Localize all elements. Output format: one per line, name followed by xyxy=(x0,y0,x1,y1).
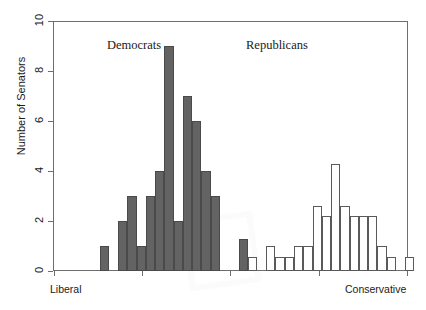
x-tickmark-2 xyxy=(230,271,231,276)
histogram-bar xyxy=(137,246,146,271)
bars-container xyxy=(0,0,426,310)
histogram-bar xyxy=(322,216,331,271)
histogram-bar xyxy=(201,171,210,271)
histogram-bar xyxy=(248,257,257,271)
histogram-bar xyxy=(266,246,275,271)
x-tickmark-0 xyxy=(54,271,55,276)
histogram-bar xyxy=(164,46,173,271)
histogram-bar xyxy=(118,221,127,271)
histogram-bar xyxy=(387,257,396,271)
x-tickmark-1 xyxy=(142,271,143,276)
histogram-bar xyxy=(146,196,155,271)
histogram-bar xyxy=(331,164,340,272)
histogram-figure: Number of Senators 10 8 6 4 2 0 Democrat… xyxy=(0,0,426,310)
x-label-liberal: Liberal xyxy=(50,283,82,295)
histogram-bar xyxy=(368,216,377,271)
histogram-bar xyxy=(294,246,303,271)
histogram-bar xyxy=(377,246,386,271)
histogram-bar xyxy=(285,257,294,271)
x-tickmark-4 xyxy=(407,271,408,276)
histogram-bar xyxy=(275,257,284,271)
histogram-bar xyxy=(100,246,109,271)
histogram-bar xyxy=(350,216,359,271)
histogram-bar xyxy=(359,216,368,271)
histogram-bar xyxy=(211,196,220,271)
histogram-bar xyxy=(405,257,414,271)
histogram-bar xyxy=(192,121,201,271)
histogram-bar xyxy=(174,221,183,271)
histogram-bar xyxy=(127,196,136,271)
histogram-bar xyxy=(239,239,248,272)
x-tickmark-3 xyxy=(319,271,320,276)
histogram-bar xyxy=(340,206,349,271)
histogram-bar xyxy=(303,246,312,271)
x-label-conservative: Conservative xyxy=(345,283,406,295)
histogram-bar xyxy=(155,171,164,271)
histogram-bar xyxy=(183,96,192,271)
histogram-bar xyxy=(313,206,322,271)
